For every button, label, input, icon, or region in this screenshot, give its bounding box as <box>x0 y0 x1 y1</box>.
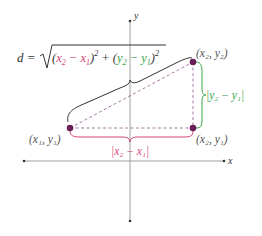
point-x1-y1 <box>67 125 74 132</box>
distance-formula-diagram: x y (x₁, y₁) (x₂, y₂) (x₂, y₁) |x₂ − x₁|… <box>0 0 262 236</box>
label-x2-y2: (x₂, y₂) <box>196 47 228 60</box>
dashed-triangle <box>70 62 193 128</box>
label-x2-y1: (x₂, y₁) <box>196 133 228 146</box>
x-axis-label: x <box>227 155 233 166</box>
formula-lhs: d = <box>17 50 36 65</box>
point-x2-y1 <box>190 125 197 132</box>
label-x1-y1: (x₁, y₁) <box>29 133 61 146</box>
diagram-canvas: x y (x₁, y₁) (x₂, y₂) (x₂, y₁) |x₂ − x₁|… <box>0 0 262 236</box>
hypotenuse-line <box>70 62 193 128</box>
x-axis-right-arrow-icon <box>223 160 226 163</box>
point-x2-y2 <box>190 59 197 66</box>
y-axis-label: y <box>133 10 139 21</box>
vertical-distance-label: |y₂ − y₁| <box>206 89 244 102</box>
x-axis <box>23 160 226 163</box>
formula-radicand: (x2 − x1)2 + (y2 − y1)2 <box>52 49 159 67</box>
y-axis-bottom-arrow-icon <box>129 220 132 223</box>
vertical-brace <box>196 62 206 128</box>
horizontal-brace <box>70 131 193 142</box>
x-axis-left-arrow-icon <box>23 160 26 163</box>
distance-formula: d = (x2 − x1)2 + (y2 − y1)2 <box>17 45 166 68</box>
y-axis-top-arrow-icon <box>129 20 132 23</box>
horizontal-distance-label: |x₂ − x₁| <box>111 145 149 158</box>
